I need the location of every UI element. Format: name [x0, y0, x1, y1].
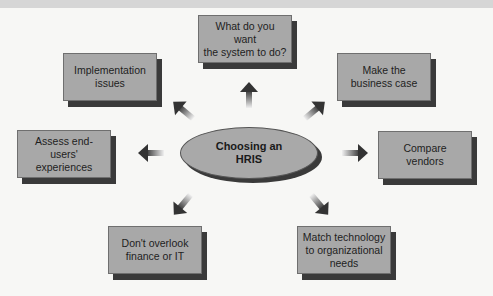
arrow-up-icon: [240, 82, 258, 108]
node-top-left: Implementationissues: [63, 53, 157, 101]
arrow-up-left-icon: [167, 95, 198, 126]
arrow-right-icon: [342, 144, 368, 162]
arrow-left-icon: [138, 144, 164, 162]
arrow-up-right-icon: [299, 95, 330, 126]
node-bottom-right: Match technologyto organizationalneeds: [297, 226, 391, 274]
node-top: What do you wantthe system to do?: [198, 15, 292, 63]
arrow-down-right-icon: [305, 189, 336, 220]
center-hub: Choosing anHRIS: [180, 127, 318, 179]
arrow-down-left-icon: [167, 189, 198, 220]
node-bottom-left: Don't overlookfinance or IT: [108, 226, 202, 274]
node-left: Assess end-users'experiences: [17, 130, 111, 178]
node-top-right: Make thebusiness case: [337, 53, 431, 101]
node-right: Comparevendors: [378, 131, 472, 179]
